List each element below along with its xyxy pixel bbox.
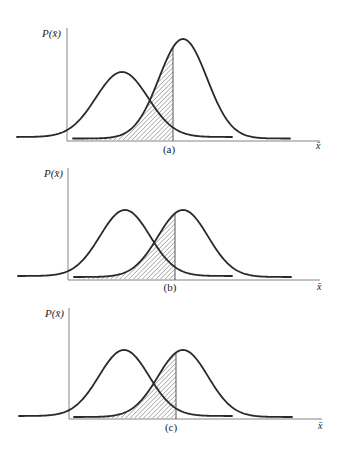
panel-caption: (a): [163, 143, 176, 156]
panel-b: P(x̄) x̄ (b): [18, 167, 322, 294]
curve-left: [17, 72, 232, 137]
panel-caption: (c): [165, 421, 178, 434]
figure-svg: P(x̄) x̄ (a) P(x̄) x̄ (b) P(x̄) x̄ (c): [0, 0, 340, 455]
curve-right: [74, 210, 291, 277]
x-axis-label: x̄: [317, 420, 323, 431]
panel-c: P(x̄) x̄ (c): [19, 307, 323, 434]
y-axis-label: P(x̄): [43, 167, 63, 180]
panel-caption: (b): [164, 281, 177, 294]
curve-left: [19, 350, 232, 416]
y-axis-label: P(x̄): [41, 27, 61, 40]
x-axis-label: x̄: [316, 281, 322, 292]
curve-left: [18, 210, 232, 276]
panel-a: P(x̄) x̄ (a): [17, 27, 321, 156]
hatched-region: [73, 47, 173, 140]
y-axis-label: P(x̄): [44, 307, 64, 320]
axes: [68, 168, 320, 280]
hatched-region: [74, 213, 175, 279]
curve-right: [74, 350, 292, 417]
x-axis-label: x̄: [315, 140, 321, 151]
curve-right: [73, 39, 290, 139]
hatched-region: [74, 353, 176, 418]
